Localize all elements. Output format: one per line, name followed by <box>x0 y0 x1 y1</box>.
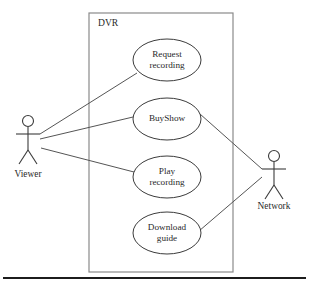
use-case-label-play-recording: Play <box>159 166 176 176</box>
actor-leg-left-viewer <box>19 150 28 164</box>
use-case-label-request-recording: Request <box>152 49 182 59</box>
actor-label-viewer: Viewer <box>14 169 42 179</box>
actor-viewer[interactable]: Viewer <box>14 116 42 180</box>
use-case-play-recording[interactable]: Playrecording <box>133 156 201 198</box>
association-download-guide-to-network <box>199 177 262 231</box>
actor-leg-left-network <box>265 185 274 199</box>
actor-network[interactable]: Network <box>258 151 291 212</box>
use-case-download-guide[interactable]: Downloadguide <box>133 212 201 254</box>
association-viewer-to-play-recording <box>41 148 134 172</box>
use-case-buyshow[interactable]: BuyShow <box>133 98 201 140</box>
actor-leg-right-viewer <box>28 150 37 164</box>
association-buyshow-to-network <box>200 114 262 169</box>
association-lines-group <box>40 73 262 231</box>
use-case-label-download-guide: Download <box>148 222 187 232</box>
actor-head-network <box>269 151 280 162</box>
use-case-diagram: DVR RequestrecordingBuyShowPlayrecording… <box>0 0 309 294</box>
use-case-label-request-recording: recording <box>149 60 185 70</box>
use-cases-group: RequestrecordingBuyShowPlayrecordingDown… <box>133 39 201 254</box>
use-case-request-recording[interactable]: Requestrecording <box>133 39 201 81</box>
diagram-canvas: DVR RequestrecordingBuyShowPlayrecording… <box>0 0 309 294</box>
use-case-label-download-guide: guide <box>157 233 177 243</box>
actor-label-network: Network <box>258 201 291 211</box>
use-case-label-buyshow: BuyShow <box>149 113 186 123</box>
actor-head-viewer <box>23 116 34 127</box>
system-boundary-label: DVR <box>98 17 119 28</box>
use-case-label-play-recording: recording <box>149 177 185 187</box>
association-viewer-to-buyshow <box>40 117 133 139</box>
actor-leg-right-network <box>274 185 283 199</box>
